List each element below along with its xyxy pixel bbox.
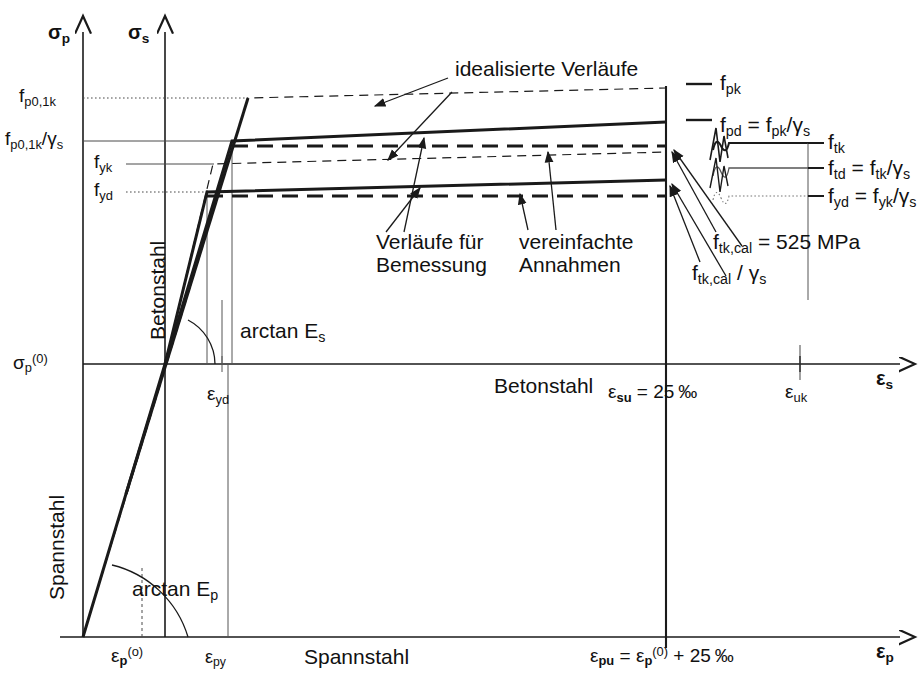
x-tick-label-eps-py: εpy [205,648,226,670]
y-tick-label-fp01k: fp0,1k [19,86,56,109]
x-tick-label-eps-p0: εp(o) [111,645,143,668]
region-label-betonstahl-axis: Betonstahl [494,375,593,398]
x-tick-label-eps-pu: εpu = εp(0) + 25 ‰ [590,645,734,668]
annotation-arctan-es: arctan Es [240,320,325,345]
axis-label-sigma-s: σs [128,22,149,46]
right-label-fpk: fpk [720,72,741,97]
diagram-canvas: σp σs εs εp fp0,1k fp0,1k/γs fyk fyd σp(… [0,0,922,685]
x-tick-label-eps-su: εsu = 25 ‰ [608,382,697,405]
region-label-spannstahl-vertical: Spannstahl [46,495,69,600]
right-level-markers [686,84,712,120]
annotation-ftk-cal: ftk,cal = 525 MPa [713,231,860,256]
right-label-fyd: fyd = fyk/γs [828,185,916,210]
region-label-spannstahl-axis: Spannstahl [304,646,409,669]
annotation-verlaeufe-fuer-bemessung: Verläufe für Bemessung [376,231,487,276]
y-tick-label-sigma-p0: σp(0) [13,352,48,375]
annotation-ftk-cal-over-gammas: ftk,cal / γs [692,262,766,287]
strain-guidelines [142,86,800,648]
annotation-idealisierte-verlaeufe: idealisierte Verläufe [455,58,638,81]
x-tick-label-eps-yd: εyd [207,384,229,407]
right-label-ftk: ftk [828,131,845,156]
axis-label-epsilon-p: εp [876,641,894,665]
x-tick-label-eps-uk: εuk [785,382,807,405]
region-label-betonstahl-vertical: Betonstahl [147,241,170,340]
axis-label-sigma-p: σp [48,22,70,46]
y-tick-label-fp01k-over-gammas: fp0,1k/γs [5,129,63,152]
right-label-ftd: ftd = ftk/γs [828,157,910,182]
spannstahl-curves [83,88,666,637]
axis-label-epsilon-s: εs [876,368,893,392]
right-label-fpd: fpd = fpk/γs [720,114,810,139]
y-tick-label-fyd: fyd [94,180,113,203]
y-tick-label-fyk: fyk [94,152,112,175]
annotation-vereinfachte-annahmen: vereinfachte Annahmen [519,231,633,276]
annotation-arctan-ep: arctan Ep [132,578,218,603]
